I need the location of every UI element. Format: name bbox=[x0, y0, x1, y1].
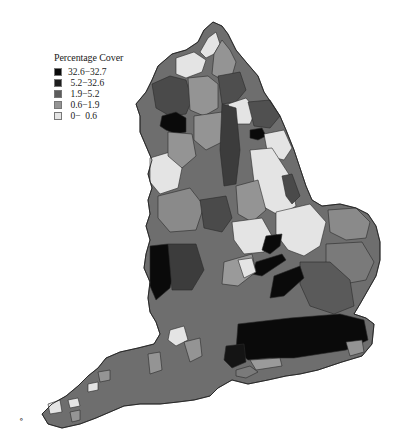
stray-mark: ∘ bbox=[19, 414, 23, 424]
legend-swatch-class-2 bbox=[54, 79, 62, 87]
legend-swatch-class-4 bbox=[54, 101, 62, 109]
legend-swatch-class-1 bbox=[54, 68, 62, 76]
legend-label: 32.6−32.7 bbox=[68, 67, 107, 77]
region-cornwall-light-3 bbox=[88, 382, 98, 392]
map-legend: Percentage Cover 32.6−32.7 5.2−32.6 1.9−… bbox=[54, 52, 123, 121]
legend-row: 32.6−32.7 bbox=[54, 66, 123, 77]
choropleth-map-figure: Percentage Cover 32.6−32.7 5.2−32.6 1.9−… bbox=[0, 0, 405, 446]
legend-title: Percentage Cover bbox=[54, 52, 123, 63]
legend-row: 5.2−32.6 bbox=[54, 77, 123, 88]
region-cornwall-tip-grey bbox=[70, 410, 80, 422]
legend-label: 1.9−5.2 bbox=[68, 89, 99, 99]
legend-row: 0− 0.6 bbox=[54, 110, 123, 121]
region-pennines-grey bbox=[188, 76, 218, 116]
legend-swatch-class-5 bbox=[54, 112, 62, 120]
legend-label: 0.6−1.9 bbox=[68, 100, 99, 110]
legend-label: 5.2−32.6 bbox=[68, 78, 104, 88]
region-cornwall-light-2 bbox=[68, 398, 80, 408]
region-cornwall-grey bbox=[98, 370, 110, 382]
legend-label: 0− 0.6 bbox=[68, 111, 97, 121]
region-pennine-dark-band bbox=[220, 104, 240, 186]
legend-row: 0.6−1.9 bbox=[54, 99, 123, 110]
region-devon-grey bbox=[148, 352, 162, 374]
legend-swatch-class-3 bbox=[54, 90, 62, 98]
legend-row: 1.9−5.2 bbox=[54, 88, 123, 99]
